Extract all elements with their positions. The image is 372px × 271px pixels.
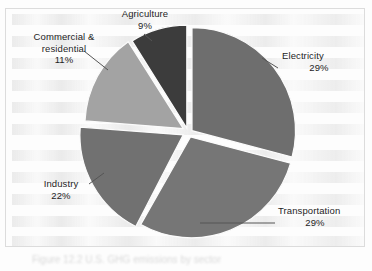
figure-page: Agriculture 9% Commercial & residential … bbox=[0, 0, 372, 271]
pie-label-industry-percent: 22% bbox=[30, 190, 92, 202]
pie-label-agriculture-name: Agriculture bbox=[122, 8, 169, 19]
pie-label-transportation: Transportation 29% bbox=[278, 205, 370, 228]
figure-caption: Figure 12.2 U.S. GHG emissions by sector bbox=[32, 254, 332, 268]
pie-label-electricity: Electricity 29% bbox=[282, 50, 362, 73]
pie-label-commercial-percent: 11% bbox=[16, 54, 112, 66]
pie-label-agriculture-percent: 9% bbox=[108, 20, 182, 32]
pie-label-commercial-line1: Commercial & bbox=[34, 31, 95, 42]
pie-label-industry: Industry 22% bbox=[30, 178, 92, 201]
pie-label-industry-name: Industry bbox=[44, 178, 79, 189]
pie-label-commercial-residential: Commercial & residential 11% bbox=[16, 31, 112, 66]
pie-label-electricity-name: Electricity bbox=[282, 50, 324, 61]
pie-label-electricity-percent: 29% bbox=[282, 62, 356, 74]
pie-chart-plot-area: Agriculture 9% Commercial & residential … bbox=[0, 0, 372, 271]
pie-label-transportation-name: Transportation bbox=[278, 205, 340, 216]
pie-label-transportation-percent: 29% bbox=[278, 217, 352, 229]
pie-slice-electricity[interactable] bbox=[192, 28, 296, 157]
pie-label-commercial-line2: residential bbox=[16, 43, 112, 55]
pie-label-agriculture: Agriculture 9% bbox=[108, 8, 182, 31]
